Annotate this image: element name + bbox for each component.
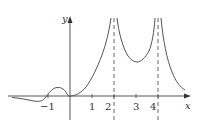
curve-right bbox=[161, 18, 185, 90]
tick-label-1: 1 bbox=[89, 101, 95, 112]
x-axis-label: x bbox=[185, 100, 191, 111]
curve-left bbox=[12, 18, 111, 101]
tick-label-4: 4 bbox=[150, 101, 156, 112]
function-graph: y x −1 1 2 3 4 bbox=[0, 0, 202, 131]
tick-label-2: 2 bbox=[105, 101, 111, 112]
y-axis-label: y bbox=[61, 13, 68, 24]
y-axis-arrow-icon bbox=[68, 16, 73, 23]
tick-label-neg1: −1 bbox=[40, 101, 55, 112]
curve-middle bbox=[117, 18, 155, 62]
x-axis-arrow-icon bbox=[184, 94, 191, 99]
tick-label-3: 3 bbox=[133, 101, 139, 112]
